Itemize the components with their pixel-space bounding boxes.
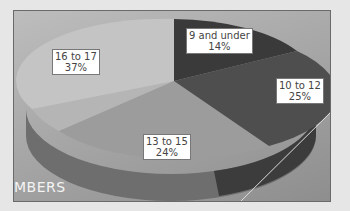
label-pct: 14%	[189, 41, 250, 52]
label-name: 13 to 15	[146, 136, 188, 147]
label-13-to-15: 13 to 15 24%	[143, 134, 191, 160]
label-name: 10 to 12	[279, 80, 321, 91]
label-name: 9 and under	[189, 30, 250, 41]
label-9-and-under: 9 and under 14%	[186, 28, 253, 54]
label-16-to-17: 16 to 17 37%	[52, 49, 100, 75]
label-name: 16 to 17	[55, 51, 97, 62]
footer-title: MBERS	[14, 179, 66, 195]
pie-chart	[14, 11, 331, 202]
label-pct: 25%	[279, 91, 321, 102]
label-10-to-12: 10 to 12 25%	[276, 78, 324, 104]
label-pct: 37%	[55, 62, 97, 73]
chart-frame: 9 and under 14% 10 to 12 25% 13 to 15 24…	[13, 10, 331, 202]
label-pct: 24%	[146, 147, 188, 158]
